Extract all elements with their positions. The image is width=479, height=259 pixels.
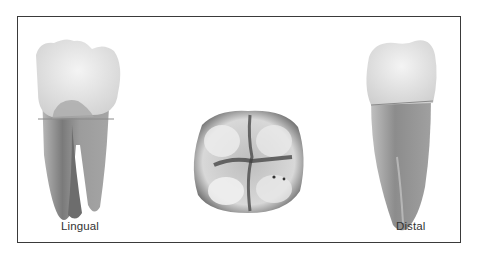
distal-tooth-image: [361, 37, 441, 237]
lingual-tooth-image: [32, 35, 126, 235]
distal-label: Distal: [396, 220, 425, 232]
lingual-label: Lingual: [61, 220, 99, 232]
occlusal-tooth-image: [188, 107, 308, 217]
figure-frame: Lingual Distal: [17, 16, 461, 243]
